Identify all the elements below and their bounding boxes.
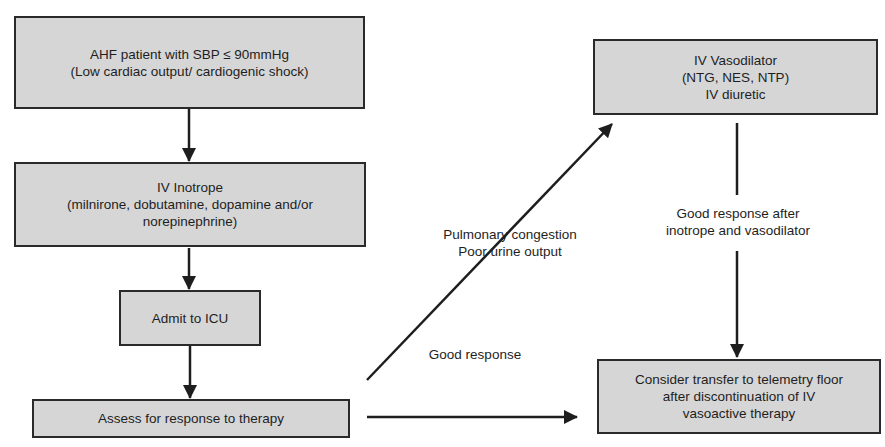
edge-label-good-after-line-1: Good response after <box>648 205 828 222</box>
edge-label-good-line-1: Good response <box>400 346 550 363</box>
node-transfer: Consider transfer to telemetry floor aft… <box>597 359 881 434</box>
node-transfer-line-1: Consider transfer to telemetry floor <box>635 371 843 388</box>
edge-label-poor-response: Pulmonary congestion Poor urine output <box>420 226 600 260</box>
edge-label-good-response: Good response <box>400 346 550 363</box>
node-assess-line-1: Assess for response to therapy <box>98 410 284 427</box>
node-transfer-line-3: vasoactive therapy <box>683 405 796 422</box>
node-icu: Admit to ICU <box>119 290 261 346</box>
edge-label-good-after-line-2: inotrope and vasodilator <box>648 222 828 239</box>
node-transfer-line-2: after discontinuation of IV <box>663 388 815 405</box>
node-inotrope-line-3: norepinephrine) <box>143 213 238 230</box>
node-vasodilator-line-3: IV diuretic <box>705 86 765 103</box>
node-vasodilator-line-2: (NTG, NES, NTP) <box>682 69 789 86</box>
node-icu-line-1: Admit to ICU <box>152 310 229 327</box>
node-inotrope-line-2: (milnirone, dobutamine, dopamine and/or <box>67 196 313 213</box>
node-start-line-2: (Low cardiac output/ cardiogenic shock) <box>71 63 309 80</box>
node-vasodilator: IV Vasodilator (NTG, NES, NTP) IV diuret… <box>593 39 878 115</box>
edge-label-poor-line-2: Poor urine output <box>420 243 600 260</box>
node-start: AHF patient with SBP ≤ 90mmHg (Low cardi… <box>14 16 365 109</box>
node-vasodilator-line-1: IV Vasodilator <box>694 52 777 69</box>
edge-label-good-after: Good response after inotrope and vasodil… <box>648 205 828 239</box>
edge-label-poor-line-1: Pulmonary congestion <box>420 226 600 243</box>
node-inotrope-line-1: IV Inotrope <box>157 179 223 196</box>
node-assess: Assess for response to therapy <box>32 399 350 438</box>
node-inotrope: IV Inotrope (milnirone, dobutamine, dopa… <box>14 162 366 247</box>
node-start-line-1: AHF patient with SBP ≤ 90mmHg <box>90 46 289 63</box>
